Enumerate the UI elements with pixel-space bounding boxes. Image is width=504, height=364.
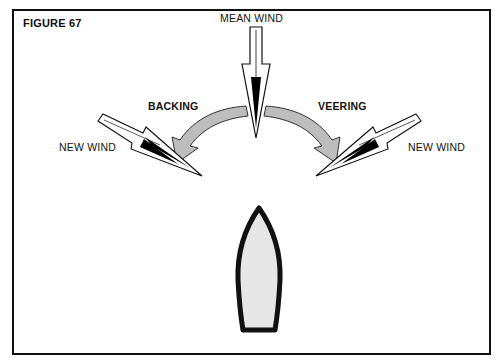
- backing-curved-arrow-icon: [172, 106, 248, 163]
- boat-hull-icon: [238, 208, 280, 330]
- veering-curved-arrow-icon: [264, 106, 340, 163]
- mean-wind-arrow-icon: [242, 27, 270, 138]
